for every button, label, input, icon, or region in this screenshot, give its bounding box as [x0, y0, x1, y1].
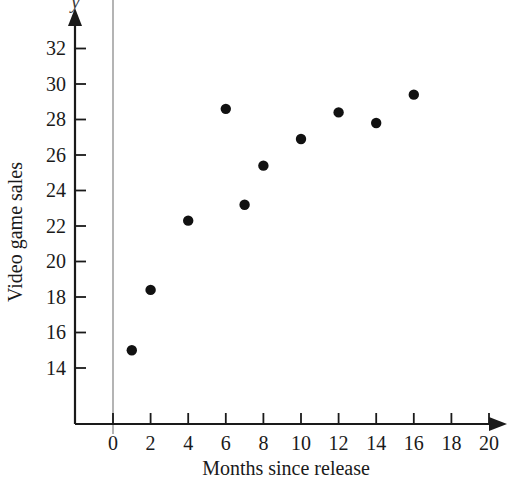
- data-points-layer: [127, 89, 419, 355]
- x-tick-label-0: 0: [108, 432, 118, 454]
- data-point: [145, 285, 155, 295]
- y-tick-label-30: 30: [46, 73, 66, 95]
- y-axis: [68, 8, 86, 424]
- data-point: [296, 134, 306, 144]
- data-point: [221, 104, 231, 114]
- x-tick-label-8: 8: [258, 432, 268, 454]
- y-tick-label-14: 14: [46, 357, 66, 379]
- plot-canvas: y 32 30 28 26 24 22 20 18 16 14: [0, 0, 516, 479]
- x-tick-label-20: 20: [479, 432, 499, 454]
- x-axis: [75, 413, 507, 431]
- data-point: [258, 160, 268, 170]
- x-axis-title: Months since release: [202, 457, 370, 479]
- x-tick-label-14: 14: [366, 432, 386, 454]
- y-tick-label-22: 22: [46, 215, 66, 237]
- y-axis-title: Video game sales: [4, 162, 27, 302]
- x-tick-label-16: 16: [404, 432, 424, 454]
- data-point: [127, 345, 137, 355]
- x-axis-arrowhead: [489, 417, 507, 431]
- x-tick-label-6: 6: [221, 432, 231, 454]
- data-point: [371, 118, 381, 128]
- scatter-plot-figure: y 32 30 28 26 24 22 20 18 16 14: [0, 0, 516, 479]
- x-tick-label-2: 2: [146, 432, 156, 454]
- y-tick-label-28: 28: [46, 108, 66, 130]
- data-point: [239, 200, 249, 210]
- y-tick-label-26: 26: [46, 144, 66, 166]
- x-tick-label-12: 12: [329, 432, 349, 454]
- data-point: [333, 107, 343, 117]
- data-point: [183, 215, 193, 225]
- data-point: [409, 89, 419, 99]
- x-tick-label-4: 4: [183, 432, 193, 454]
- y-tick-label-24: 24: [46, 179, 66, 201]
- y-tick-label-20: 20: [46, 250, 66, 272]
- y-tick-label-18: 18: [46, 286, 66, 308]
- x-tick-label-18: 18: [441, 432, 461, 454]
- x-tick-label-10: 10: [291, 432, 311, 454]
- y-tick-label-32: 32: [46, 37, 66, 59]
- y-tick-label-16: 16: [46, 321, 66, 343]
